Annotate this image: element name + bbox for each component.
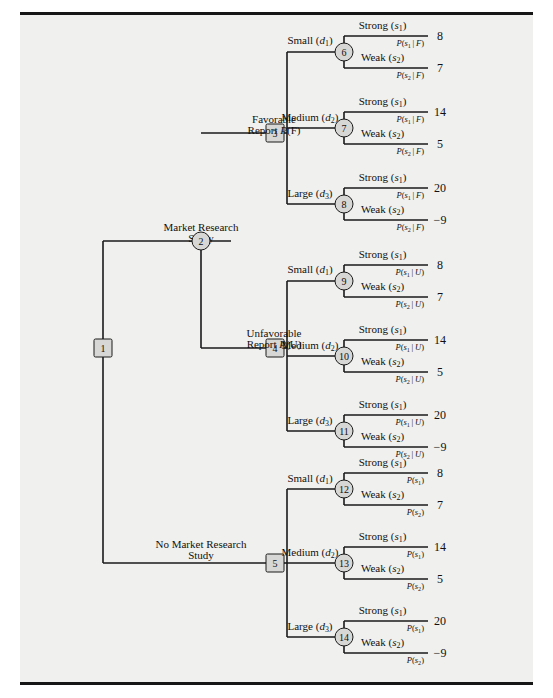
state-label-10-1: Weak (s2) xyxy=(361,356,404,370)
decision-tree-figure: 1Market ResearchStudyNo Market ResearchS… xyxy=(0,0,553,698)
prob-label-7-1: P(s2 | F) xyxy=(396,147,424,157)
payoff-14-0: 20 xyxy=(434,615,446,628)
payoff-12-0: 8 xyxy=(437,467,443,480)
payoff-6-0: 8 xyxy=(437,30,443,43)
tree-node-14[interactable]: 14 xyxy=(335,628,354,647)
state-label-12-0: Strong (s1) xyxy=(359,457,407,471)
state-label-7-0: Strong (s1) xyxy=(359,96,407,110)
payoff-13-1: 5 xyxy=(437,573,443,586)
tree-node-2[interactable]: 2 xyxy=(192,232,211,251)
state-label-6-1: Weak (s2) xyxy=(361,52,404,66)
payoff-6-1: 7 xyxy=(437,62,443,75)
report-label-favorable-line2: Report P(F) xyxy=(248,125,301,137)
payoff-7-0: 14 xyxy=(434,106,446,119)
prob-label-10-1: P(s2 | U) xyxy=(395,375,424,385)
prob-label-8-1: P(s2 | F) xyxy=(396,223,424,233)
state-label-13-1: Weak (s2) xyxy=(361,563,404,577)
payoff-11-1: −9 xyxy=(434,441,447,454)
prob-label-10-0: P(s1 | U) xyxy=(395,343,424,353)
state-label-10-0: Strong (s1) xyxy=(359,324,407,338)
payoff-14-1: −9 xyxy=(434,647,447,660)
decision-label-10: Medium (d2) xyxy=(282,340,339,354)
prob-label-14-1: P(s2) xyxy=(407,656,424,666)
prob-label-11-0: P(s1 | U) xyxy=(395,418,424,428)
payoff-13-0: 14 xyxy=(434,541,446,554)
payoff-11-0: 20 xyxy=(434,409,446,422)
prob-label-6-1: P(s2 | F) xyxy=(396,71,424,81)
decision-label-8: Large (d3) xyxy=(288,188,333,202)
decision-label-14: Large (d3) xyxy=(288,621,333,635)
state-label-8-1: Weak (s2) xyxy=(361,204,404,218)
payoff-7-1: 5 xyxy=(437,138,443,151)
prob-label-12-0: P(s1) xyxy=(407,476,424,486)
payoff-12-1: 7 xyxy=(437,499,443,512)
tree-node-9[interactable]: 9 xyxy=(335,272,354,291)
prob-label-13-1: P(s2) xyxy=(407,582,424,592)
tree-node-8[interactable]: 8 xyxy=(335,195,354,214)
state-label-7-1: Weak (s2) xyxy=(361,128,404,142)
decision-label-13: Medium (d2) xyxy=(282,547,339,561)
payoff-9-0: 8 xyxy=(437,259,443,272)
state-label-14-1: Weak (s2) xyxy=(361,637,404,651)
payoff-8-1: −9 xyxy=(434,214,447,227)
tree-node-11[interactable]: 11 xyxy=(335,422,354,441)
state-label-9-1: Weak (s2) xyxy=(361,281,404,295)
state-label-11-0: Strong (s1) xyxy=(359,399,407,413)
state-label-11-1: Weak (s2) xyxy=(361,431,404,445)
payoff-10-0: 14 xyxy=(434,334,446,347)
payoff-10-1: 5 xyxy=(437,366,443,379)
prob-label-9-1: P(s2 | U) xyxy=(395,300,424,310)
decision-label-9: Small (d1) xyxy=(287,264,332,278)
prob-label-13-0: P(s1) xyxy=(407,550,424,560)
payoff-8-0: 20 xyxy=(434,182,446,195)
decision-label-12: Small (d1) xyxy=(287,473,332,487)
tree-node-6[interactable]: 6 xyxy=(335,43,354,62)
tree-node-12[interactable]: 12 xyxy=(335,480,354,499)
root-branch-label-no-market-research-line2: Study xyxy=(188,550,214,562)
state-label-14-0: Strong (s1) xyxy=(359,605,407,619)
prob-label-6-0: P(s1 | F) xyxy=(396,39,424,49)
tree-node-1[interactable]: 1 xyxy=(94,339,113,358)
payoff-9-1: 7 xyxy=(437,291,443,304)
prob-label-7-0: P(s1 | F) xyxy=(396,115,424,125)
state-label-12-1: Weak (s2) xyxy=(361,489,404,503)
decision-label-6: Small (d1) xyxy=(287,35,332,49)
decision-label-11: Large (d3) xyxy=(288,415,333,429)
prob-label-12-1: P(s2) xyxy=(407,508,424,518)
state-label-8-0: Strong (s1) xyxy=(359,172,407,186)
state-label-13-0: Strong (s1) xyxy=(359,531,407,545)
prob-label-14-0: P(s1) xyxy=(407,624,424,634)
state-label-6-0: Strong (s1) xyxy=(359,20,407,34)
decision-label-7: Medium (d2) xyxy=(282,112,339,126)
prob-label-9-0: P(s1 | U) xyxy=(395,268,424,278)
prob-label-8-0: P(s1 | F) xyxy=(396,191,424,201)
state-label-9-0: Strong (s1) xyxy=(359,249,407,263)
